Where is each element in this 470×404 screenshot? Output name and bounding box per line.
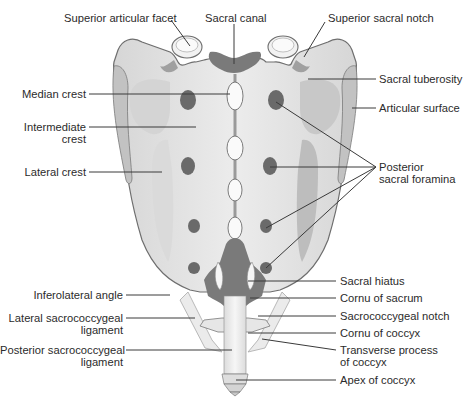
label-median-crest: Median crest bbox=[14, 88, 86, 100]
label-transverse-process-of-coccyx: Transverse process of coccyx bbox=[340, 344, 438, 368]
label-cornu-of-sacrum: Cornu of sacrum bbox=[340, 292, 423, 304]
label-inferolateral-angle: Inferolateral angle bbox=[0, 289, 123, 301]
label-superior-sacral-notch: Superior sacral notch bbox=[328, 12, 434, 24]
label-sacrococcygeal-notch: Sacrococcygeal notch bbox=[340, 310, 449, 322]
label-lateral-sacrococcygeal-ligament: Lateral sacrococcygeal ligament bbox=[0, 312, 123, 336]
label-articular-surface: Articular surface bbox=[379, 102, 460, 114]
label-apex-of-coccyx: Apex of coccyx bbox=[340, 374, 415, 386]
label-posterior-sacral-foramina: Posterior sacral foramina bbox=[379, 161, 455, 185]
sacrum-diagram: Superior articular facet Sacral canal Su… bbox=[0, 0, 470, 404]
label-sacral-tuberosity: Sacral tuberosity bbox=[379, 73, 462, 85]
label-superior-articular-facet: Superior articular facet bbox=[64, 12, 177, 24]
label-cornu-of-coccyx: Cornu of coccyx bbox=[340, 327, 420, 339]
label-intermediate-crest: Intermediate crest bbox=[14, 121, 86, 145]
label-sacral-canal: Sacral canal bbox=[205, 12, 267, 24]
label-sacral-hiatus: Sacral hiatus bbox=[340, 275, 405, 287]
label-posterior-sacrococcygeal-ligament: Posterior sacrococcygeal ligament bbox=[0, 344, 123, 368]
superior-articular-facets bbox=[172, 36, 298, 58]
label-lateral-crest: Lateral crest bbox=[14, 166, 86, 178]
